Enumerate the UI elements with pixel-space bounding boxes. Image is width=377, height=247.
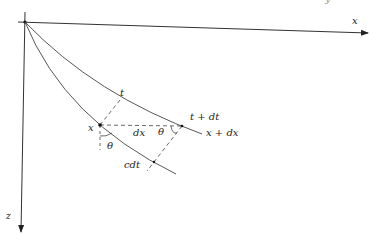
point-x — [98, 123, 102, 127]
x-axis-label: x — [352, 16, 358, 26]
point-lower-intersection — [153, 161, 155, 163]
wavefront-diagram — [0, 0, 377, 247]
point-x-plus-dx — [181, 125, 184, 128]
label-theta-start: θ — [107, 141, 113, 151]
label-t: t — [120, 88, 124, 98]
z-axis — [21, 12, 25, 232]
label-x-plus-dx: x + dx — [206, 128, 238, 138]
z-axis-label: z — [6, 212, 11, 221]
label-cdt: cdt — [124, 160, 140, 170]
curve-lower — [25, 22, 176, 174]
x-axis — [18, 22, 368, 33]
label-theta-end: θ — [158, 127, 164, 137]
angle-arc-end — [171, 126, 177, 133]
curve-upper — [25, 22, 202, 134]
label-t-plus-dt: t + dt — [190, 112, 219, 122]
label-x: x — [88, 123, 94, 133]
label-dx: dx — [133, 128, 145, 138]
dx-dashed-line — [100, 125, 182, 126]
top-right-fragment: y " — [325, 0, 338, 4]
normal-dashed-line-upper — [100, 100, 120, 125]
